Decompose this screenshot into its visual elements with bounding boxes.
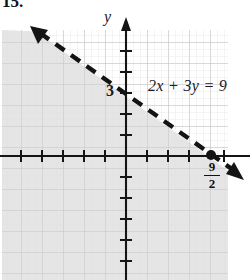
fraction-numerator: 9	[203, 160, 221, 174]
figure-container: 15.	[0, 0, 250, 280]
graph-canvas	[0, 0, 250, 280]
equation-label: 2x + 3y = 9	[148, 78, 227, 94]
y-axis-label: y	[104, 9, 111, 25]
fraction-denominator: 2	[203, 177, 221, 191]
y-intercept-label: 3	[106, 83, 114, 99]
y-axis-arrowhead	[121, 17, 131, 31]
x-intercept-fraction-label: 9 2	[203, 160, 221, 190]
